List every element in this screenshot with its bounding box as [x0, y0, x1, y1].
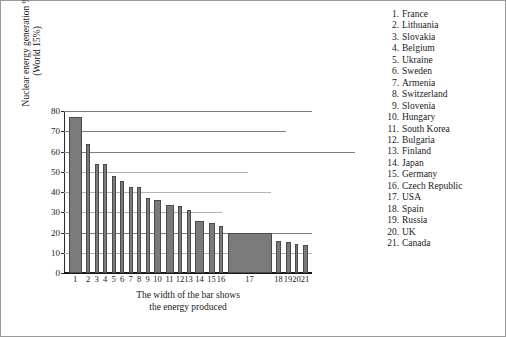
- gridline-80: [64, 111, 312, 112]
- legend-item-label: Spain: [402, 204, 424, 215]
- y-tick-label-30: 30: [51, 208, 60, 217]
- legend-item-number: 6.: [384, 66, 399, 77]
- country-legend-list: 1.France2.Lithuania3.Slovakia4.Belgium5.…: [384, 9, 502, 250]
- legend-item-label: Slovakia: [402, 32, 435, 43]
- x-tick-label-4: 4: [103, 275, 107, 284]
- bar-7: [129, 187, 133, 273]
- bar-9: [146, 198, 150, 273]
- legend-item-label: Germany: [402, 169, 437, 180]
- legend-item-lithuania: 2.Lithuania: [384, 20, 502, 31]
- y-tick-mark-70: [61, 131, 64, 132]
- legend-item-number: 11.: [384, 124, 399, 135]
- legend-item-label: Ukraine: [402, 55, 433, 66]
- legend-item-number: 4.: [384, 43, 399, 54]
- y-tick-label-60: 60: [51, 147, 60, 156]
- y-tick-label-70: 70: [51, 127, 60, 136]
- x-tick-label-19: 19: [284, 275, 293, 284]
- legend-item-uk: 20.UK: [384, 227, 502, 238]
- x-tick-label-8: 8: [137, 275, 141, 284]
- legend-item-number: 9.: [384, 101, 399, 112]
- legend-item-label: Bulgaria: [402, 135, 435, 146]
- legend-item-number: 10.: [384, 112, 399, 123]
- y-tick-label-20: 20: [51, 228, 60, 237]
- y-axis-title: Nuclear energy generation % (World 15%): [21, 0, 43, 131]
- legend-item-label: Switzerland: [402, 89, 447, 100]
- bar-12: [178, 206, 182, 273]
- legend-item-belgium: 4.Belgium: [384, 43, 502, 54]
- y-tick-label-50: 50: [51, 167, 60, 176]
- legend-item-label: USA: [402, 192, 421, 203]
- legend-item-slovakia: 3.Slovakia: [384, 32, 502, 43]
- legend-item-number: 3.: [384, 32, 399, 43]
- legend-item-label: France: [402, 9, 428, 20]
- legend-item-czech-republic: 16.Czech Republic: [384, 181, 502, 192]
- legend-item-label: Sweden: [402, 66, 432, 77]
- legend-item-label: Czech Republic: [402, 181, 462, 192]
- x-tick-label-3: 3: [94, 275, 98, 284]
- gridline-50: [64, 172, 248, 173]
- figure-frame: Nuclear energy generation % (World 15%) …: [0, 0, 506, 337]
- gridline-70: [64, 131, 286, 132]
- x-tick-label-11: 11: [165, 275, 173, 284]
- legend-item-sweden: 6.Sweden: [384, 66, 502, 77]
- legend-item-ukraine: 5.Ukraine: [384, 55, 502, 66]
- legend-item-finland: 13.Finland: [384, 146, 502, 157]
- x-tick-label-15: 15: [207, 275, 216, 284]
- legend-item-number: 19.: [384, 215, 399, 226]
- bar-2: [86, 144, 90, 273]
- bar-15: [209, 223, 215, 273]
- y-tick-mark-10: [61, 253, 64, 254]
- bar-20: [295, 244, 298, 273]
- legend-item-switzerland: 8.Switzerland: [384, 89, 502, 100]
- legend-item-south-korea: 11.South Korea: [384, 124, 502, 135]
- y-tick-mark-20: [61, 233, 64, 234]
- y-tick-mark-0: [61, 273, 64, 274]
- y-tick-mark-40: [61, 192, 64, 193]
- y-tick-mark-50: [61, 172, 64, 173]
- x-tick-label-2: 2: [86, 275, 90, 284]
- legend-item-label: Belgium: [402, 43, 435, 54]
- bar-8: [137, 187, 141, 273]
- bar-13: [187, 210, 191, 273]
- legend-item-japan: 14.Japan: [384, 158, 502, 169]
- y-tick-label-10: 10: [51, 248, 60, 257]
- legend-item-label: Hungary: [402, 112, 435, 123]
- x-tick-label-1: 1: [73, 275, 77, 284]
- bar-10: [154, 200, 161, 273]
- legend-item-armenia: 7.Armenia: [384, 78, 502, 89]
- legend-item-usa: 17.USA: [384, 192, 502, 203]
- legend-item-germany: 15.Germany: [384, 169, 502, 180]
- x-tick-label-16: 16: [217, 275, 226, 284]
- legend-item-number: 12.: [384, 135, 399, 146]
- x-tick-label-20: 20: [292, 275, 301, 284]
- legend-item-spain: 18.Spain: [384, 204, 502, 215]
- legend-item-number: 17.: [384, 192, 399, 203]
- bar-3: [95, 164, 99, 273]
- legend-item-number: 18.: [384, 204, 399, 215]
- x-tick-label-13: 13: [184, 275, 193, 284]
- x-tick-label-21: 21: [301, 275, 310, 284]
- bar-11: [166, 205, 174, 273]
- x-tick-label-12: 12: [176, 275, 185, 284]
- bar-1: [69, 117, 82, 273]
- legend-item-france: 1.France: [384, 9, 502, 20]
- legend-item-bulgaria: 12.Bulgaria: [384, 135, 502, 146]
- legend-item-number: 8.: [384, 89, 399, 100]
- legend-item-hungary: 10.Hungary: [384, 112, 502, 123]
- bar-5: [112, 176, 116, 273]
- gridline-60: [64, 152, 355, 153]
- legend-item-number: 7.: [384, 78, 399, 89]
- legend-item-number: 15.: [384, 169, 399, 180]
- legend-item-label: UK: [402, 227, 416, 238]
- x-tick-label-6: 6: [120, 275, 124, 284]
- x-tick-label-17: 17: [245, 275, 254, 284]
- legend-item-label: Canada: [402, 238, 431, 249]
- bar-18: [276, 241, 281, 273]
- bar-21: [303, 245, 308, 273]
- x-axis-caption: The width of the bar shows the energy pr…: [64, 289, 312, 313]
- legend-item-russia: 19.Russia: [384, 215, 502, 226]
- legend-item-canada: 21.Canada: [384, 238, 502, 249]
- legend-item-label: Finland: [402, 146, 431, 157]
- x-tick-label-14: 14: [195, 275, 204, 284]
- y-tick-label-40: 40: [51, 188, 60, 197]
